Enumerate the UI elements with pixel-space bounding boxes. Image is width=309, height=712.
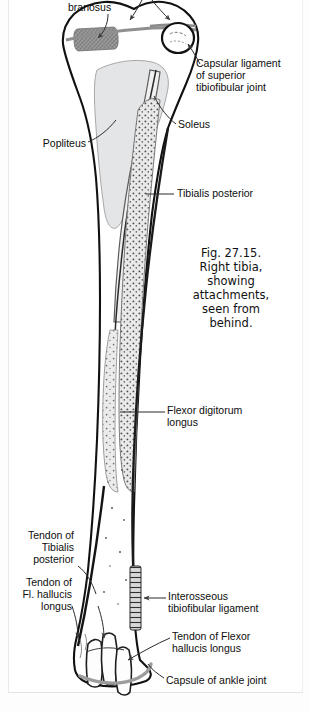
label-semimembranosus: branosus — [68, 1, 111, 13]
label-capsule-of-ankle-joint: Capsule of ankle joint — [166, 674, 266, 686]
figure-plate: branosus Capsular ligament of superior t… — [0, 0, 309, 712]
label-tendon-of-tibialis-posterior: Tendon of Tibialis posterior — [14, 529, 74, 566]
figure-caption: Fig. 27.15. Right tibia, showing attachm… — [172, 246, 290, 330]
label-tendon-of-flexor-hallucis-longus: Tendon of Flexor hallucis longus — [172, 630, 250, 654]
label-flexor-digitorum-longus: Flexor digitorum longus — [167, 404, 242, 428]
superior-tibiofibular-facet — [162, 23, 194, 53]
interosseous-tibiofibular-ligament-area — [130, 566, 141, 630]
label-popliteus: Popliteus — [34, 137, 86, 149]
label-tendon-of-fl-hallucis-longus: Tendon of Fl. hallucis longus — [10, 576, 72, 613]
label-capsular-ligament-superior-tibiofibular-joint: Capsular ligament of superior tibiofibul… — [196, 57, 281, 94]
label-tibialis-posterior: Tibialis posterior — [177, 187, 253, 199]
label-interosseous-tibiofibular-ligament: Interosseous tibiofibular ligament — [168, 590, 258, 614]
label-soleus: Soleus — [178, 118, 210, 130]
